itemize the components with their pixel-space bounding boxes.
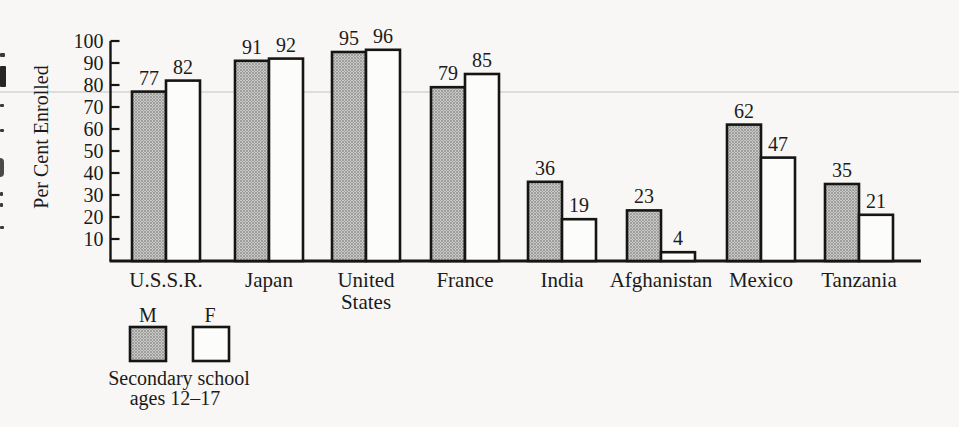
bar-f-6 xyxy=(761,158,795,261)
y-axis-tick-label: 10 xyxy=(84,228,104,250)
bar-m-2 xyxy=(332,52,366,261)
bar-f-1 xyxy=(269,59,303,261)
x-axis-category-label: Afghanistan xyxy=(610,268,713,292)
bar-value-label: 62 xyxy=(734,100,754,122)
bar-f-3 xyxy=(465,74,499,261)
bar-m-1 xyxy=(235,61,269,261)
bar-m-5 xyxy=(627,210,661,261)
bar-f-0 xyxy=(166,81,200,261)
bar-value-label: 19 xyxy=(569,194,589,216)
y-axis-tick-label: 40 xyxy=(84,162,104,184)
bar-m-0 xyxy=(132,92,166,261)
legend-label-f: F xyxy=(204,304,215,326)
legend-swatch-m xyxy=(130,327,166,361)
bar-value-label: 82 xyxy=(173,56,193,78)
y-axis-tick-label: 100 xyxy=(74,30,104,52)
bar-f-4 xyxy=(562,219,596,261)
bar-m-3 xyxy=(431,87,465,261)
bar-f-2 xyxy=(366,50,400,261)
y-axis-tick-label: 80 xyxy=(84,74,104,96)
enrollment-bar-chart: 102030405060708090100Per Cent Enrolled77… xyxy=(0,0,959,427)
bar-f-5 xyxy=(661,252,695,261)
x-axis-category-label: Tanzania xyxy=(821,268,897,292)
x-axis-category-label: Japan xyxy=(245,268,293,292)
bar-value-label: 92 xyxy=(276,34,296,56)
y-axis-tick-label: 30 xyxy=(84,184,104,206)
x-axis-category-label: United xyxy=(337,268,395,292)
y-axis-tick-label: 20 xyxy=(84,206,104,228)
bar-value-label: 47 xyxy=(768,133,788,155)
y-axis-tick-label: 50 xyxy=(84,140,104,162)
bar-value-label: 77 xyxy=(139,67,159,89)
bar-value-label: 91 xyxy=(242,36,262,58)
y-axis-title: Per Cent Enrolled xyxy=(30,65,52,208)
chart-content: 102030405060708090100Per Cent Enrolled77… xyxy=(30,25,921,410)
x-axis-category-label: Mexico xyxy=(729,268,793,292)
x-axis-category-label: U.S.S.R. xyxy=(129,268,203,292)
bar-value-label: 85 xyxy=(472,49,492,71)
bar-m-7 xyxy=(825,184,859,261)
bar-m-4 xyxy=(528,182,562,261)
bar-value-label: 23 xyxy=(634,185,654,207)
y-axis-tick-label: 70 xyxy=(84,96,104,118)
x-axis-category-label: States xyxy=(341,290,391,314)
legend-label-m: M xyxy=(139,304,157,326)
bar-value-label: 96 xyxy=(373,25,393,47)
bar-value-label: 36 xyxy=(535,157,555,179)
bar-value-label: 95 xyxy=(339,27,359,49)
bar-value-label: 35 xyxy=(832,159,852,181)
bar-m-6 xyxy=(727,125,761,261)
y-axis-tick-label: 90 xyxy=(84,52,104,74)
x-axis-category-label: France xyxy=(436,268,493,292)
y-axis-tick-label: 60 xyxy=(84,118,104,140)
bar-value-label: 21 xyxy=(866,190,886,212)
legend-caption-line: ages 12–17 xyxy=(130,387,221,410)
bar-value-label: 4 xyxy=(673,227,683,249)
bar-value-label: 79 xyxy=(438,62,458,84)
scanned-page: 102030405060708090100Per Cent Enrolled77… xyxy=(0,0,959,427)
bar-f-7 xyxy=(859,215,893,261)
x-axis-category-label: India xyxy=(540,268,584,292)
legend-swatch-f xyxy=(193,327,229,361)
